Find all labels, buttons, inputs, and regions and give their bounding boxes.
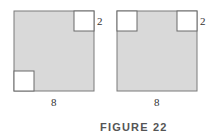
right-corner-label: 2 [200, 15, 206, 27]
right-cutout-top-right [177, 11, 197, 31]
right-side-label: 8 [154, 96, 160, 108]
figure-22: 2 8 2 8 FIGURE 22 [0, 0, 219, 135]
figure-caption: FIGURE 22 [100, 121, 168, 133]
left-cutout-top-right [74, 11, 94, 31]
right-cutout-top-left [117, 11, 137, 31]
left-cutout-bottom-left [14, 71, 34, 91]
left-side-label: 8 [51, 96, 57, 108]
figure-canvas: 2 8 2 8 FIGURE 22 [0, 0, 219, 135]
left-panel: 2 8 [14, 11, 103, 108]
left-corner-label: 2 [97, 15, 103, 27]
right-panel: 2 8 [117, 11, 206, 108]
